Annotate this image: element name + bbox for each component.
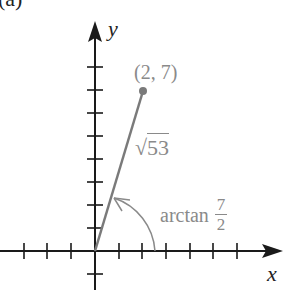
angle-label-prefix: arctan xyxy=(160,205,209,225)
x-axis-label: x xyxy=(267,263,277,285)
angle-label: arctan 7 2 xyxy=(160,196,227,233)
angle-arc xyxy=(114,198,155,251)
fraction-denominator: 2 xyxy=(217,215,226,233)
segment-to-point xyxy=(95,91,143,251)
point-label: (2, 7) xyxy=(134,62,177,82)
point-2-7 xyxy=(139,87,147,95)
radical-sign: √ xyxy=(135,135,147,160)
angle-fraction: 7 2 xyxy=(215,196,228,233)
radicand: 53 xyxy=(147,133,169,160)
y-axis-label: y xyxy=(108,18,118,40)
fraction-numerator: 7 xyxy=(215,196,228,215)
segment-length-label: √53 xyxy=(135,137,169,159)
